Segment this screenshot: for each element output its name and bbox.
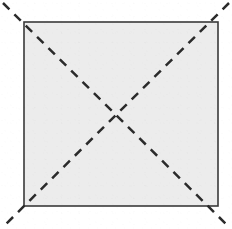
square-with-dashed-diagonals-figure [0, 0, 232, 229]
figure-root [0, 0, 232, 229]
